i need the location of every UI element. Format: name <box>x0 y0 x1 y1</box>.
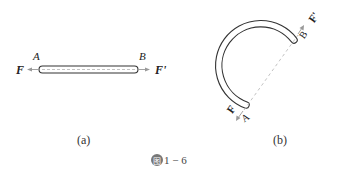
figure-canvas <box>0 0 337 180</box>
figure-number-text: 1 − 6 <box>164 154 187 166</box>
figure-number: 图 1 − 6 <box>151 154 187 166</box>
caption-b: (b) <box>273 133 287 148</box>
straight-bar-diagram <box>27 66 150 73</box>
point-a-label: A <box>33 51 40 62</box>
caption-a: (a) <box>77 133 90 148</box>
figure-badge-icon: 图 <box>151 154 163 166</box>
force-f-prime-label: F' <box>155 64 166 76</box>
point-b-label: B <box>139 51 146 62</box>
force-f-label: F <box>16 64 24 76</box>
